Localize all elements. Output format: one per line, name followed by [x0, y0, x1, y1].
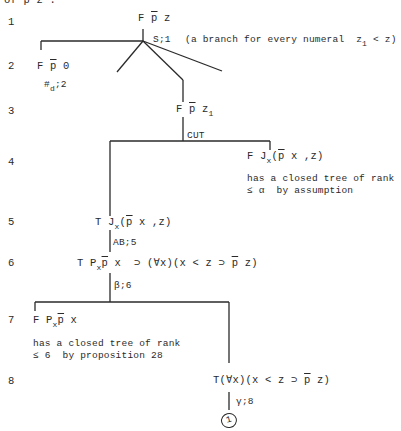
rule-label-1: S;1 [153, 34, 171, 46]
node-4-note-line2: ≤ α by assumption [247, 185, 353, 197]
rule-label-ab5: AB;5 [113, 237, 137, 249]
rule-label-2: #d;2 [44, 79, 67, 91]
node-7-formula: F Pxp x [33, 314, 77, 327]
node-7-note-line1: has a closed tree of rank [33, 338, 181, 350]
node-7-note-line2: ≤ 6 by proposition 28 [33, 350, 163, 362]
rule-label-cut: CUT [187, 130, 205, 142]
node-5-formula: T Jx(p x ,z) [95, 216, 172, 229]
node-4-formula: F Jx(p x ,z) [247, 150, 324, 163]
node-6-formula: T Pxp x ⊃ (∀x)(x < z ⊃ p z) [77, 257, 258, 270]
branch-note: (a branch for every numeral z1 < z) [185, 34, 397, 46]
node-1-formula: F p z [138, 12, 171, 24]
node-8-formula: T(∀x)(x < z ⊃ p z) [213, 374, 330, 386]
rule-label-gamma8: γ;8 [236, 396, 254, 408]
node-3-formula: F p z1 [176, 103, 214, 116]
rule-label-beta6: β;6 [114, 280, 132, 292]
node-2-formula: F p 0 [37, 60, 70, 72]
node-4-note-line1: has a closed tree of rank [247, 173, 395, 185]
